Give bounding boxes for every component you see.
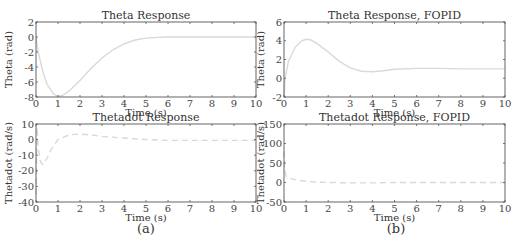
y-tick-label: -2 bbox=[272, 92, 282, 103]
y-tick-label: -30 bbox=[18, 181, 34, 192]
x-tick-label: 3 bbox=[347, 98, 353, 109]
theta-response-axes-frame bbox=[36, 22, 256, 97]
y-tick-label: 6 bbox=[276, 17, 282, 28]
x-tick-label: 7 bbox=[187, 203, 193, 214]
theta-response-fopid-axes-frame bbox=[284, 22, 505, 97]
thetadot-response-fopid-ylabel: Thetadot (rad/s) bbox=[255, 122, 266, 204]
theta-response-fopid-title: Theta Response, FOPID bbox=[328, 9, 461, 22]
x-tick-label: 7 bbox=[436, 203, 442, 214]
x-tick-label: 8 bbox=[458, 203, 464, 214]
x-tick-label: 1 bbox=[55, 203, 61, 214]
x-tick-label: 10 bbox=[250, 98, 263, 109]
y-tick-label: -4 bbox=[24, 62, 34, 73]
x-tick-label: 9 bbox=[231, 98, 237, 109]
x-tick-label: 9 bbox=[480, 98, 486, 109]
y-tick-label: -40 bbox=[18, 197, 34, 208]
theta-response-ylabel: Theta (rad) bbox=[3, 31, 14, 88]
x-tick-label: 2 bbox=[325, 203, 331, 214]
theta-response-fopid-ylabel: Theta (rad) bbox=[255, 31, 266, 88]
thetadot-response-fopid-axes-frame bbox=[284, 124, 505, 202]
thetadot-response-axes-frame bbox=[36, 124, 256, 202]
x-tick-label: 7 bbox=[436, 98, 442, 109]
x-tick-label: 1 bbox=[303, 203, 309, 214]
y-tick-label: -10 bbox=[18, 150, 34, 161]
x-tick-label: 3 bbox=[347, 203, 353, 214]
y-tick-label: 50 bbox=[269, 158, 282, 169]
y-tick-label: 2 bbox=[28, 17, 34, 28]
thetadot-response-fopid-curve bbox=[284, 151, 505, 183]
x-tick-label: 2 bbox=[325, 98, 331, 109]
y-tick-label: 0 bbox=[28, 32, 34, 43]
y-tick-label: -8 bbox=[24, 92, 34, 103]
x-tick-label: 10 bbox=[499, 203, 512, 214]
thetadot-response-title: Thetadot Response bbox=[93, 111, 200, 124]
x-tick-label: 2 bbox=[77, 203, 83, 214]
x-tick-label: 9 bbox=[480, 203, 486, 214]
y-tick-label: 0 bbox=[28, 134, 34, 145]
theta-response-title: Theta Response bbox=[102, 9, 191, 22]
thetadot-response-curve bbox=[36, 127, 256, 194]
x-tick-label: 10 bbox=[499, 98, 512, 109]
x-tick-label: 2 bbox=[77, 98, 83, 109]
y-tick-label: 0 bbox=[276, 177, 282, 188]
x-tick-label: 1 bbox=[55, 98, 61, 109]
x-tick-label: 3 bbox=[99, 203, 105, 214]
subfigure-label-a: (a) bbox=[137, 221, 155, 236]
x-tick-label: 8 bbox=[209, 203, 215, 214]
thetadot-response-fopid-title: Thetadot Response, FOPID bbox=[319, 111, 470, 124]
x-tick-label: 3 bbox=[99, 98, 105, 109]
thetadot-response-ylabel: Thetadot (rad/s) bbox=[3, 122, 14, 204]
theta-response-fopid-curve bbox=[284, 39, 505, 97]
x-tick-label: 7 bbox=[187, 98, 193, 109]
y-tick-label: 2 bbox=[276, 54, 282, 65]
subfigure-label-b: (b) bbox=[387, 221, 405, 236]
x-tick-label: 8 bbox=[209, 98, 215, 109]
y-tick-label: -20 bbox=[18, 165, 34, 176]
theta-response-curve bbox=[36, 37, 256, 96]
y-tick-label: 0 bbox=[276, 73, 282, 84]
figure: Theta Response012345678910-8-6-4-202Time… bbox=[0, 0, 516, 244]
y-tick-label: -6 bbox=[24, 77, 34, 88]
x-tick-label: 8 bbox=[458, 98, 464, 109]
y-tick-label: 10 bbox=[21, 119, 34, 130]
x-tick-label: 9 bbox=[231, 203, 237, 214]
x-tick-label: 1 bbox=[303, 98, 309, 109]
y-tick-label: -2 bbox=[24, 47, 34, 58]
y-tick-label: 4 bbox=[276, 35, 282, 46]
y-tick-label: -50 bbox=[266, 197, 282, 208]
